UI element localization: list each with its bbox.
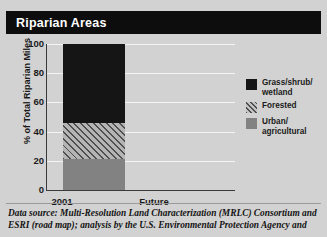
plot-area (46, 44, 235, 191)
x-tick-future: Future (109, 196, 199, 207)
chart-container: % of Total Riparian Miles 100 80 60 40 2… (0, 36, 327, 204)
legend-label-urban-agricultural: Urban/ agricultural (262, 117, 307, 136)
legend-label-line1: Grass/shrub/ (262, 78, 313, 87)
legend-item-forested: Forested (246, 101, 326, 113)
legend-label-line1: Urban/ (262, 117, 288, 126)
bar-future-empty (155, 44, 217, 190)
bar-segment-grass-shrub-wetland (63, 44, 125, 123)
y-tick-60: 60 (18, 98, 44, 108)
y-tick-80: 80 (18, 68, 44, 78)
footnote-line-1: Data source: Multi-Resolution Land Chara… (8, 208, 317, 218)
legend-swatch-urban-agricultural (246, 118, 257, 129)
figure-title-bar: Riparian Areas (6, 11, 321, 34)
legend-swatch-grass-shrub-wetland (246, 79, 257, 90)
footnote-divider (6, 203, 321, 204)
legend-item-grass-shrub-wetland: Grass/shrub/ wetland (246, 78, 326, 97)
bar-segment-forested (63, 123, 125, 160)
bar-segment-urban-agricultural (63, 159, 125, 190)
footnote-line-2: ESRI (road map); analysis by the U.S. En… (8, 220, 307, 230)
y-tick-40: 40 (18, 127, 44, 137)
y-axis-ticks: 100 80 60 40 20 0 (14, 44, 44, 190)
legend-swatch-forested (246, 102, 257, 113)
chart-legend: Grass/shrub/ wetland Forested Urban/ agr… (246, 78, 326, 141)
legend-label-line2: wetland (262, 88, 292, 97)
y-tick-100: 100 (18, 39, 44, 49)
figure-footnote: Data source: Multi-Resolution Land Chara… (8, 207, 320, 231)
legend-label-grass-shrub-wetland: Grass/shrub/ wetland (262, 78, 313, 97)
x-tick-2001: 2001 (17, 196, 107, 207)
legend-label-forested: Forested (262, 101, 297, 111)
legend-item-urban-agricultural: Urban/ agricultural (246, 117, 326, 136)
y-tick-0: 0 (18, 185, 44, 195)
riparian-areas-figure: Riparian Areas % of Total Riparian Miles… (0, 0, 327, 237)
y-tick-20: 20 (18, 156, 44, 166)
bar-2001 (63, 44, 125, 190)
legend-label-line2: agricultural (262, 127, 307, 136)
